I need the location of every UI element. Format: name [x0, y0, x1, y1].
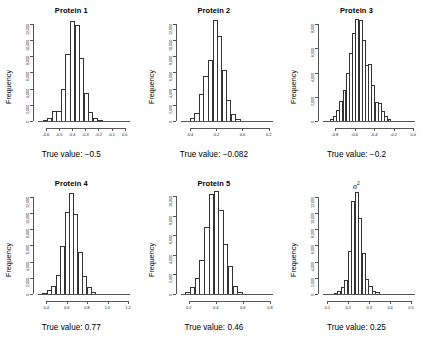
x-axis-tick-label: 0.8	[78, 305, 96, 310]
panel-title: σ2	[285, 179, 428, 191]
plot-area	[38, 190, 130, 294]
y-axis-tick-label: 6,000	[163, 72, 179, 88]
y-axis-tick-label: 2,000	[305, 97, 321, 113]
x-axis-tick-label: 0.2	[339, 305, 357, 310]
y-axis-tick-label: 12,000	[305, 197, 321, 213]
y-axis-tick-label: 6,000	[20, 245, 36, 261]
x-axis-line	[190, 128, 269, 129]
histogram-baseline	[323, 121, 415, 122]
x-axis-tick	[369, 301, 370, 304]
bar-group	[323, 17, 415, 121]
y-axis-label: Frequency	[289, 243, 298, 277]
y-axis-label: Frequency	[146, 70, 155, 104]
y-axis-tick-label: 2,000	[163, 105, 179, 121]
x-axis-tick-label: -0.6	[346, 132, 364, 137]
y-axis-tick-label: 12,000	[20, 197, 36, 213]
y-axis-tick-label: 8,000	[305, 24, 321, 40]
x-axis-tick-label: 0.6	[234, 305, 252, 310]
x-axis-tick-label: 0.0	[404, 132, 422, 137]
x-axis-tick	[411, 301, 412, 304]
x-axis-tick	[190, 128, 191, 131]
histogram-figure: Protein 1Frequency02,0004,0006,0008,0001…	[0, 0, 428, 346]
x-axis-tick-label: 0.3	[360, 305, 378, 310]
x-axis-tick	[394, 128, 395, 131]
bar-group	[181, 190, 273, 294]
plot-area	[323, 17, 415, 121]
x-axis-tick	[216, 301, 217, 304]
x-axis-tick	[72, 128, 73, 131]
x-axis-tick-label: -0.4	[365, 132, 383, 137]
y-axis-tick-label: 4,000	[163, 255, 179, 271]
y-axis-tick-label: 0	[20, 294, 36, 310]
x-axis-tick	[67, 301, 68, 304]
y-axis-tick-label: 4,000	[163, 89, 179, 105]
x-axis-tick-label: -0.2	[385, 132, 403, 137]
y-axis-tick-label: 0	[20, 121, 36, 137]
x-axis-tick-label: 0.8	[261, 305, 279, 310]
x-axis-tick-label: 0.0	[116, 132, 134, 137]
x-axis-tick	[112, 128, 113, 131]
y-axis-tick-label: 2,000	[20, 105, 36, 121]
histogram-baseline	[38, 294, 130, 295]
y-axis-tick-label: 8,000	[20, 229, 36, 245]
x-axis-tick	[335, 128, 336, 131]
histogram-baseline	[38, 121, 130, 122]
x-axis-label: True value: 0.25	[285, 323, 428, 332]
x-axis-tick-label: 1.0	[99, 305, 117, 310]
y-axis-tick-label: 0	[305, 121, 321, 137]
panel-title: Protein 1	[0, 6, 143, 15]
x-axis-tick	[355, 128, 356, 131]
panel-title: Protein 2	[143, 6, 286, 15]
plot-area	[323, 190, 415, 294]
y-axis-tick-label: 8,000	[20, 56, 36, 72]
x-axis-tick	[46, 301, 47, 304]
x-axis-label: True value: −0.2	[285, 150, 428, 159]
y-axis-tick-label: 10,000	[20, 213, 36, 229]
bar-group	[38, 17, 130, 121]
histogram-baseline	[181, 121, 273, 122]
histogram-panel-3: Protein 3Frequency02,0004,0006,0008,000-…	[285, 0, 428, 173]
y-axis-tick-label: 10,000	[305, 213, 321, 229]
x-axis-tick	[189, 301, 190, 304]
x-axis-tick	[242, 128, 243, 131]
x-axis-line	[189, 301, 270, 302]
histogram-baseline	[323, 294, 415, 295]
y-axis-tick-label: 6,000	[20, 72, 36, 88]
x-axis-tick	[85, 128, 86, 131]
y-axis-tick-label: 4,000	[305, 262, 321, 278]
y-axis-tick-label: 6,000	[305, 48, 321, 64]
y-axis-tick-label: 12,000	[163, 24, 179, 40]
y-axis-label: Frequency	[289, 70, 298, 104]
panel-title: Protein 5	[143, 179, 286, 188]
y-axis-tick-label: 8,000	[163, 56, 179, 72]
plot-area	[181, 190, 273, 294]
y-axis-tick-label: 10,000	[163, 196, 179, 212]
x-axis-tick-label: 0.4	[207, 305, 225, 310]
bar-group	[181, 17, 273, 121]
y-axis-tick-label: 0	[163, 121, 179, 137]
x-axis-tick-label: 0.0	[233, 132, 251, 137]
x-axis-tick-label: 0.2	[180, 305, 198, 310]
histogram-panel-4: Protein 4Frequency02,0004,0006,0008,0001…	[0, 173, 143, 346]
y-axis-label: Frequency	[4, 70, 13, 104]
x-axis-tick-label: 0.2	[260, 132, 278, 137]
x-axis-tick-label: 0.6	[58, 305, 76, 310]
x-axis-tick-label: 0.5	[402, 305, 420, 310]
x-axis-label: True value: 0.77	[0, 323, 143, 332]
bar-group	[38, 190, 130, 294]
x-axis-tick	[348, 301, 349, 304]
x-axis-tick-label: 1.2	[119, 305, 137, 310]
plot-area	[181, 17, 273, 121]
y-axis-tick-label: 4,000	[305, 73, 321, 89]
y-axis-tick-label: 10,000	[20, 40, 36, 56]
plot-area	[38, 17, 130, 121]
y-axis-tick-label: 2,000	[163, 274, 179, 290]
histogram-baseline	[181, 294, 273, 295]
histogram-panel-2: Protein 2Frequency02,0004,0006,0008,0001…	[143, 0, 286, 173]
panel-title: Protein 4	[0, 179, 143, 188]
x-axis-tick-label: 0.4	[37, 305, 55, 310]
panel-title: Protein 3	[285, 6, 428, 15]
y-axis-label: Frequency	[146, 243, 155, 277]
x-axis-tick-label: 0.4	[381, 305, 399, 310]
x-axis-tick	[327, 301, 328, 304]
